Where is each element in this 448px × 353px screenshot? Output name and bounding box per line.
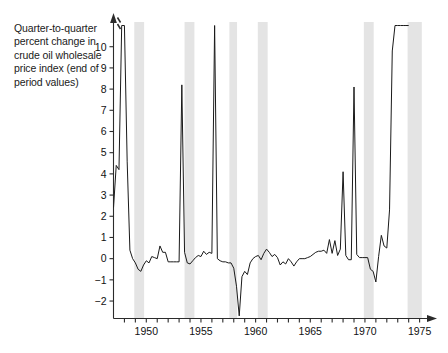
recession-bands-group (134, 22, 422, 318)
y-axis-arrow-icon (110, 13, 117, 23)
axes-group (110, 13, 437, 322)
axis-break-slash-icon (118, 18, 121, 23)
recession-band (229, 22, 237, 318)
y-tick-label: 2 (101, 210, 107, 222)
y-tick-label: −2 (95, 295, 107, 307)
y-tick-label: 1 (101, 231, 107, 243)
axis-break-slash-icon (118, 24, 121, 29)
x-tick-label: 1960 (244, 325, 268, 337)
figure-caption: Quarter-to-quarter percent change in cru… (14, 22, 106, 89)
recession-band (258, 22, 268, 318)
x-tick-label: 1965 (299, 325, 323, 337)
recession-band (185, 22, 195, 318)
y-tick-label: −1 (95, 274, 107, 286)
x-tick-label: 1955 (189, 325, 213, 337)
y-tick-label: 6 (101, 125, 107, 137)
y-tick-label: 4 (101, 168, 107, 180)
recession-band (134, 22, 144, 318)
oil-price-change-figure: Quarter-to-quarter percent change in cru… (0, 0, 448, 353)
y-tick-label: 3 (101, 189, 107, 201)
y-tick-label: 7 (101, 104, 107, 116)
recession-band (408, 22, 422, 318)
y-axis-break-marks (118, 18, 121, 30)
y-tick-label: 5 (101, 146, 107, 158)
x-axis-ticks-group: 195019551960196519701975 (124, 319, 431, 338)
x-tick-label: 1970 (353, 325, 377, 337)
x-tick-label: 1950 (135, 325, 159, 337)
x-axis-arrow-icon (427, 315, 437, 322)
recession-band (364, 22, 374, 318)
x-tick-label: 1975 (408, 325, 432, 337)
y-tick-label: 0 (101, 252, 107, 264)
